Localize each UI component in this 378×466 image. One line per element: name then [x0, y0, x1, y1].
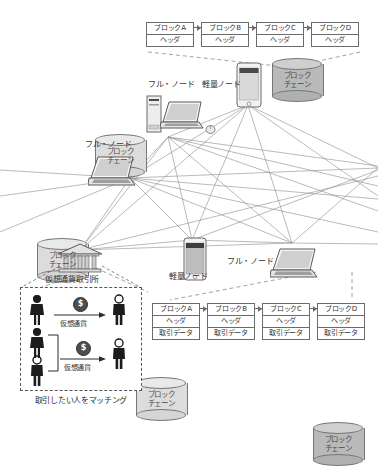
cylinder-bottom-ellipse: [313, 454, 363, 466]
exchange-caption: 取引したい人をマッチング: [20, 394, 142, 405]
cylinder-top-ellipse: [272, 58, 322, 70]
label-full-node-upper: フル・ノード: [148, 78, 194, 89]
block-name: ブロックB: [202, 23, 248, 35]
cylinder-bottom-ellipse: [272, 90, 322, 102]
block-txdata-row: 取引データ: [263, 328, 309, 339]
label-full-node-right: フル・ノード: [227, 255, 273, 266]
laptop-icon-upper[interactable]: [160, 100, 204, 134]
block-header-row: ヘッダ: [147, 35, 193, 46]
mouse-icon: [205, 125, 216, 134]
transfer-label-2: 仮想通貨: [64, 362, 90, 372]
cylinder-label: ブロックチェーン: [136, 390, 186, 408]
chain-link-arrow-icon: [255, 303, 262, 314]
block-card[interactable]: ブロックC ヘッダ 取引データ: [262, 303, 310, 340]
chain-link-arrow-icon: [304, 22, 311, 33]
chain-link-arrow-icon: [200, 303, 207, 314]
block-card[interactable]: ブロックB ヘッダ: [201, 22, 249, 47]
block-card[interactable]: ブロックB ヘッダ 取引データ: [207, 303, 255, 340]
merge-bracket-icon: [48, 334, 60, 372]
top-block-chain: ブロックA ヘッダ ブロックB ヘッダ ブロックC ヘッダ ブロックD ヘッダ: [146, 22, 359, 47]
block-card[interactable]: ブロックD ヘッダ 取引データ: [317, 303, 365, 340]
cylinder-top-ellipse: [136, 377, 186, 389]
block-name: ブロックA: [147, 23, 193, 35]
transfer-label-1: 仮想通貨: [60, 318, 86, 328]
block-card[interactable]: ブロックA ヘッダ: [146, 22, 194, 47]
block-txdata-row: 取引データ: [318, 328, 364, 339]
cylinder-label: ブロックチェーン: [272, 71, 322, 89]
block-name: ブロックC: [257, 23, 303, 35]
cylinder-label: ブロックチェーン: [37, 251, 87, 269]
block-header-row: ヘッダ: [208, 316, 254, 328]
coin-icon-2: $: [76, 341, 91, 356]
bottom-block-chain: ブロックA ヘッダ 取引データ ブロックB ヘッダ 取引データ ブロックC ヘッ…: [152, 303, 365, 340]
block-name: ブロックD: [318, 304, 364, 316]
coin-icon-1: $: [73, 297, 88, 312]
block-header-row: ヘッダ: [257, 35, 303, 46]
chain-link-arrow-icon: [249, 22, 256, 33]
block-header-row: ヘッダ: [312, 35, 358, 46]
block-txdata-row: 取引データ: [208, 328, 254, 339]
block-header-row: ヘッダ: [202, 35, 248, 46]
block-card[interactable]: ブロックD ヘッダ: [311, 22, 359, 47]
block-card[interactable]: ブロックA ヘッダ 取引データ: [152, 303, 200, 340]
person-icon-man-2: [28, 355, 46, 387]
block-card[interactable]: ブロックC ヘッダ: [256, 22, 304, 47]
blockchain-cylinder-top-right[interactable]: ブロックチェーン: [272, 58, 322, 102]
block-header-row: ヘッダ: [318, 316, 364, 328]
blockchain-cylinder-center[interactable]: ブロックチェーン: [136, 377, 186, 421]
blockchain-cylinder-bottom-right[interactable]: ブロックチェーン: [313, 422, 363, 466]
person-icon-man-3: [110, 338, 128, 370]
block-header-row: ヘッダ: [263, 316, 309, 328]
person-icon-woman-1: [28, 294, 46, 326]
chain-link-arrow-icon: [194, 22, 201, 33]
person-icon-man-1: [110, 294, 128, 326]
block-header-row: ヘッダ: [153, 316, 199, 328]
cylinder-label: ブロックチェーン: [95, 147, 145, 165]
cylinder-bottom-ellipse: [136, 409, 186, 421]
block-name: ブロックD: [312, 23, 358, 35]
label-light-node-center: 軽量ノード: [169, 270, 208, 281]
block-name: ブロックA: [153, 304, 199, 316]
block-name: ブロックB: [208, 304, 254, 316]
cylinder-label: ブロックチェーン: [313, 435, 363, 453]
label-light-node-upper: 軽量ノード: [202, 78, 241, 89]
laptop-icon-right[interactable]: [270, 247, 318, 283]
cylinder-top-ellipse: [313, 422, 363, 434]
chain-link-arrow-icon: [310, 303, 317, 314]
block-name: ブロックC: [263, 304, 309, 316]
block-txdata-row: 取引データ: [153, 328, 199, 339]
